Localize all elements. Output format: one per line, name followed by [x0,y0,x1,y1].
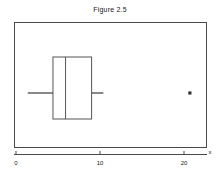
x-axis-tick-label: 0 [14,160,17,167]
figure-container: Figure 2.5 01020 x [0,0,220,177]
plot-frame [14,22,207,148]
x-axis: 01020 x [0,148,220,177]
x-axis-tick-label: 20 [181,160,188,167]
x-axis-ticks-group [14,151,207,155]
x-axis-label: x [209,149,212,156]
chart-title: Figure 2.5 [0,5,220,14]
x-axis-tick-label: 10 [97,160,104,167]
